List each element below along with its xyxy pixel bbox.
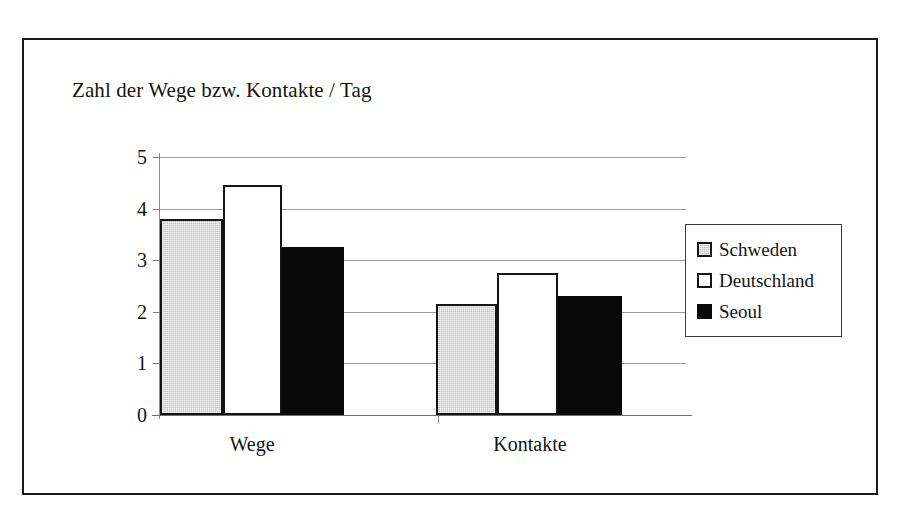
bar-kontakte-schweden[interactable] xyxy=(436,304,497,415)
y-tick-label-0: 0 xyxy=(137,405,147,425)
bar-wege-seoul[interactable] xyxy=(282,247,344,415)
bar-wege-deutschland[interactable] xyxy=(223,185,282,415)
legend-swatch-icon-schweden xyxy=(697,242,712,257)
y-tick-label-4: 4 xyxy=(137,199,147,219)
legend-item-seoul[interactable]: Seoul xyxy=(697,296,831,327)
chart-title: Zahl der Wege bzw. Kontakte / Tag xyxy=(72,78,371,103)
chart-legend: Schweden Deutschland Seoul xyxy=(685,224,842,337)
y-tick-2 xyxy=(153,312,160,313)
legend-label-seoul: Seoul xyxy=(719,302,762,321)
y-tick-label-1: 1 xyxy=(137,353,147,373)
legend-swatch-icon-deutschland xyxy=(697,273,712,288)
legend-label-schweden: Schweden xyxy=(719,240,797,259)
y-tick-4 xyxy=(153,209,160,210)
x-tick-divider xyxy=(438,415,439,423)
y-tick-label-5: 5 xyxy=(137,147,147,167)
x-axis-line xyxy=(152,415,692,416)
y-tick-label-2: 2 xyxy=(137,302,147,322)
legend-swatch-icon-seoul xyxy=(697,304,712,319)
legend-label-deutschland: Deutschland xyxy=(719,271,814,290)
bar-kontakte-seoul[interactable] xyxy=(558,296,622,415)
y-tick-label-3: 3 xyxy=(137,250,147,270)
gridline-5: 5 xyxy=(160,157,686,158)
x-axis-label-kontakte: Kontakte xyxy=(493,433,566,456)
x-axis-label-wege: Wege xyxy=(229,433,274,456)
y-tick-5 xyxy=(153,157,160,158)
legend-item-deutschland[interactable]: Deutschland xyxy=(697,265,831,296)
plot-area: 5 4 3 2 1 0 xyxy=(160,157,686,415)
legend-item-schweden[interactable]: Schweden xyxy=(697,234,831,265)
y-tick-3 xyxy=(153,260,160,261)
figure-frame: Zahl der Wege bzw. Kontakte / Tag 5 4 3 … xyxy=(22,38,878,495)
bar-wege-schweden[interactable] xyxy=(160,219,223,415)
y-tick-1 xyxy=(153,363,160,364)
bar-kontakte-deutschland[interactable] xyxy=(497,273,558,415)
